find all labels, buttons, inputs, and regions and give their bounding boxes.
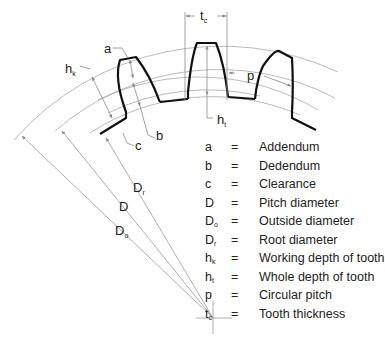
D-line: [62, 131, 213, 318]
label-D: D: [119, 199, 128, 214]
clearance-arc: [108, 90, 260, 113]
outside-circle-arc: [14, 46, 338, 140]
p-arrow-right: [264, 76, 291, 86]
legend-row-tooth-thickness: tc = Tooth thickness: [205, 307, 385, 326]
gear-teeth: [100, 43, 316, 134]
c-leader: [123, 133, 134, 146]
a-dim: [130, 60, 133, 78]
label-Do: Do: [115, 223, 128, 239]
legend-row-addendum: a = Addendum: [205, 140, 385, 159]
legend-row-working-depth: hk = Working depth of tooth: [205, 251, 385, 270]
legend-row-clearance: c = Clearance: [205, 177, 385, 196]
root-right: [228, 97, 255, 99]
label-b: b: [156, 128, 163, 143]
label-ht: ht: [217, 112, 226, 128]
tooth-right: [255, 51, 316, 130]
legend: a = Addendum b = Dedendum c = Clearance …: [205, 140, 385, 325]
legend-row-circular-pitch: p = Circular pitch: [205, 288, 385, 307]
label-tc: tc: [200, 8, 208, 24]
legend-row-pitch-diameter: D = Pitch diameter: [205, 196, 385, 215]
legend-row-root-diameter: Dr = Root diameter: [205, 233, 385, 252]
working-depth-arc: [98, 77, 318, 110]
label-hk: hk: [65, 61, 76, 77]
legend-row-outside-diameter: Do = Outside diameter: [205, 214, 385, 233]
hk-leader: [80, 66, 90, 69]
label-Dr: Dr: [133, 180, 145, 196]
root-left: [160, 99, 188, 102]
label-p: p: [247, 68, 254, 83]
root-circle-arc: [90, 97, 300, 133]
legend-row-dedendum: b = Dedendum: [205, 159, 385, 178]
construction-arcs: [14, 46, 338, 140]
label-c: c: [135, 138, 142, 153]
legend-row-whole-depth: ht = Whole depth of tooth: [205, 270, 385, 289]
hk-dim: [92, 77, 112, 118]
label-a: a: [104, 41, 112, 56]
a-leader: [113, 48, 128, 58]
